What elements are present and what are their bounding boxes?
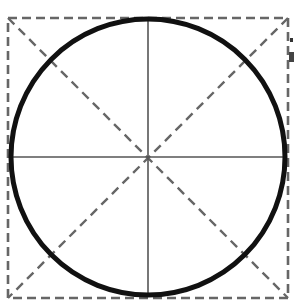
diagram-canvas — [0, 0, 294, 305]
edge-mark — [289, 52, 294, 62]
edge-tick — [290, 38, 293, 42]
